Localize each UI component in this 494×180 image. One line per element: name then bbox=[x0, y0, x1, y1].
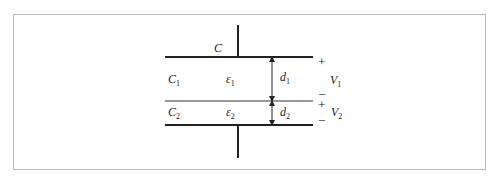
capacitor-diagram: C C1 ε1 d1 V1 + − C2 ε2 d2 V2 + − bbox=[0, 0, 494, 180]
epsilon1-label: ε1 bbox=[226, 72, 235, 88]
epsilon2-label: ε2 bbox=[226, 105, 235, 121]
v2-plus-sign: + bbox=[318, 97, 325, 112]
v2-label: V2 bbox=[331, 105, 342, 121]
c2-label: C2 bbox=[168, 105, 180, 121]
v2-minus-sign: − bbox=[318, 113, 325, 128]
capacitor-label: C bbox=[214, 41, 223, 55]
c1-label: C1 bbox=[168, 72, 180, 88]
v1-plus-sign: + bbox=[318, 54, 325, 69]
d2-label: d2 bbox=[280, 105, 290, 121]
d1-label: d1 bbox=[280, 70, 290, 86]
v1-label: V1 bbox=[330, 73, 341, 89]
